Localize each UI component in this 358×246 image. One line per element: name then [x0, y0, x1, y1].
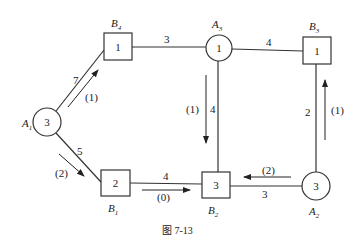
node-label-B3: B3 — [309, 20, 320, 35]
flow-A1-B4: (1) — [85, 91, 98, 104]
cost-A3-B2: 4 — [210, 103, 216, 115]
flow-B1-B2: (0) — [157, 191, 170, 204]
node-value-A1: 3 — [44, 116, 50, 128]
edge-A3-B3 — [232, 49, 303, 51]
network-diagram: 3A13A21A32B13B21B31B4 7 (1) 5 (2) 3 4 4 … — [0, 0, 358, 246]
node-value-B3: 1 — [314, 45, 320, 57]
node-label-B1: B1 — [108, 202, 118, 217]
node-label-A1: A1 — [21, 117, 32, 132]
cost-A2-B2: 3 — [262, 188, 268, 200]
flow-A1-B1: (2) — [55, 167, 68, 180]
cost-B1-B2: 4 — [163, 170, 169, 182]
cost-A1-B4: 7 — [73, 74, 79, 86]
cost-B4-A3: 3 — [164, 33, 170, 45]
node-value-B2: 3 — [213, 179, 219, 191]
edge-B1-B2 — [130, 183, 202, 184]
node-label-A2: A2 — [308, 205, 320, 220]
cost-A2-B3: 2 — [305, 106, 311, 118]
node-value-A2: 3 — [313, 180, 319, 192]
node-value-B1: 2 — [113, 177, 119, 189]
node-label-B2: B2 — [208, 204, 219, 219]
node-label-B4: B4 — [111, 17, 122, 32]
node-value-A3: 1 — [216, 42, 222, 54]
flow-A3-B2: (1) — [186, 103, 199, 116]
cost-A3-B3: 4 — [266, 36, 272, 48]
node-label-A3: A3 — [211, 18, 223, 33]
cost-A1-B1: 5 — [77, 145, 83, 157]
flow-A2-B2: (2) — [262, 164, 275, 177]
figure-caption: 图 7-13 — [162, 225, 193, 236]
flow-A2-B3: (1) — [331, 104, 344, 117]
node-value-B4: 1 — [115, 41, 121, 53]
